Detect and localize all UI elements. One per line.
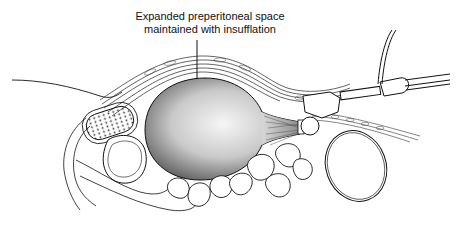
insufflation-tube	[378, 30, 392, 84]
skin-line	[12, 80, 122, 97]
anatomy-drawing	[0, 0, 462, 232]
rectum	[103, 135, 146, 183]
trocar	[303, 74, 450, 118]
balloon-tip	[301, 117, 319, 135]
illustration: Expanded preperitoneal space maintained …	[0, 0, 462, 232]
